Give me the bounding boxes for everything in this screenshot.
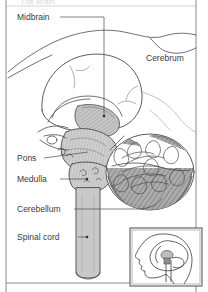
label-pons-text: Pons bbox=[17, 153, 36, 163]
figure-title-cropped: The Brain bbox=[20, 0, 55, 6]
label-cerebrum: Cerebrum bbox=[146, 53, 184, 63]
label-cerebrum-text: Cerebrum bbox=[146, 53, 184, 63]
head-orientation-inset bbox=[130, 228, 202, 286]
label-medulla-text: Medulla bbox=[17, 174, 47, 184]
label-midbrain-text: Midbrain bbox=[17, 12, 50, 22]
leader-dot-medulla bbox=[86, 178, 89, 181]
brain-anatomy-figure: The Brain bbox=[0, 0, 208, 292]
inset-pons-highlight bbox=[164, 258, 170, 264]
spinal-cord-region bbox=[76, 188, 100, 279]
leader-dot-midbrain bbox=[103, 115, 106, 118]
label-spinal-cord-text: Spinal cord bbox=[17, 232, 60, 242]
label-cerebellum-text: Cerebellum bbox=[17, 204, 60, 214]
leader-dot-spinal-cord bbox=[86, 236, 89, 239]
figure-title-text: The Brain bbox=[20, 0, 55, 6]
